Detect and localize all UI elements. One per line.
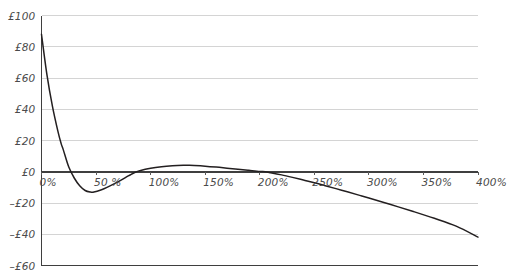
data-series-group [42, 34, 479, 237]
y-tick-label: £80 [0, 42, 36, 53]
x-tick-label: 150% [203, 177, 234, 188]
x-tick-label: 300% [367, 177, 398, 188]
y-tick-label: £0 [0, 167, 36, 178]
y-tick-label: £20 [0, 135, 36, 146]
series-line-0 [42, 34, 479, 237]
x-tick-label: 400% [476, 177, 507, 188]
x-tick-label: 0% [40, 177, 57, 188]
x-tick-label: 100% [149, 177, 180, 188]
y-tick-label: £40 [0, 104, 36, 115]
y-tick-label: –£40 [0, 229, 36, 240]
x-tick-label: 200% [258, 177, 289, 188]
x-tick-label: 50 % [94, 177, 121, 188]
x-tick-label: 250% [312, 177, 343, 188]
x-tick-label: 350% [421, 177, 452, 188]
gridline-group [42, 16, 479, 235]
y-tick-label: –£60 [0, 260, 36, 271]
y-tick-label: £60 [0, 73, 36, 84]
y-tick-label: £100 [0, 10, 36, 21]
y-tick-label: –£20 [0, 198, 36, 209]
